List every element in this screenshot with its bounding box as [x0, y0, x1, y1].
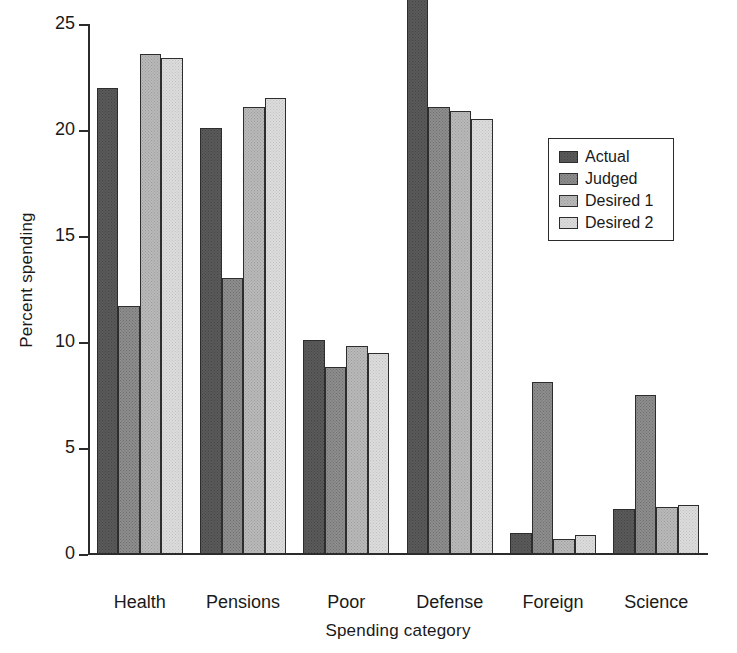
- legend-item: Desired 1: [559, 190, 673, 212]
- x-tick-label: Pensions: [191, 576, 294, 613]
- x-tick-label: Defense: [398, 576, 501, 613]
- y-tick-label: 20: [55, 119, 75, 140]
- bar: [161, 58, 183, 554]
- bar: [450, 111, 472, 554]
- y-tick-mark: [79, 24, 88, 26]
- y-tick-label: 25: [55, 13, 75, 34]
- legend-label: Desired 1: [585, 193, 653, 209]
- x-tick-label: Science: [605, 576, 708, 613]
- bar: [575, 535, 597, 554]
- bar: [200, 128, 222, 554]
- y-tick-mark: [79, 130, 88, 132]
- bar: [656, 507, 678, 554]
- bar-group: [510, 24, 596, 554]
- legend-label: Desired 2: [585, 215, 653, 231]
- bar: [243, 107, 265, 554]
- bar: [346, 346, 368, 554]
- x-tick-label: Poor: [295, 576, 398, 613]
- legend-label: Judged: [585, 171, 638, 187]
- y-tick-mark: [79, 448, 88, 450]
- bar: [303, 340, 325, 554]
- legend-swatch: [559, 195, 578, 207]
- bar: [471, 119, 493, 554]
- legend-swatch: [559, 173, 578, 185]
- bar-group: [97, 24, 183, 554]
- y-tick-mark: [79, 342, 88, 344]
- bar: [613, 509, 635, 554]
- legend: ActualJudgedDesired 1Desired 2: [548, 138, 674, 241]
- y-tick-label: 15: [55, 225, 75, 246]
- bar: [532, 382, 554, 554]
- bar: [678, 505, 700, 554]
- legend-item: Actual: [559, 146, 673, 168]
- legend-item: Judged: [559, 168, 673, 190]
- bar: [222, 278, 244, 554]
- bar: [407, 0, 429, 554]
- bar: [553, 539, 575, 554]
- x-axis-title: Spending category: [88, 621, 708, 641]
- bar-group: [407, 24, 493, 554]
- y-tick-mark: [79, 236, 88, 238]
- y-tick-label: 10: [55, 331, 75, 352]
- bar-group: [303, 24, 389, 554]
- bar: [140, 54, 162, 554]
- bar: [635, 395, 657, 554]
- legend-swatch: [559, 151, 578, 163]
- bar: [118, 306, 140, 554]
- y-tick-mark: [79, 554, 88, 556]
- bar: [510, 533, 532, 554]
- plot-area: 0510152025 HealthPensionsPoorDefenseFore…: [88, 24, 708, 554]
- bar-group: [200, 24, 286, 554]
- legend-swatch: [559, 217, 578, 229]
- y-tick-label: 0: [65, 543, 75, 564]
- y-tick-label: 5: [65, 437, 75, 458]
- bar: [428, 107, 450, 554]
- bar: [265, 98, 287, 554]
- bar-chart-figure: Percent spending Spending category 05101…: [0, 0, 737, 653]
- legend-label: Actual: [585, 149, 629, 165]
- bar: [325, 367, 347, 554]
- bar-group: [613, 24, 699, 554]
- x-tick-label: Foreign: [501, 576, 604, 613]
- bar: [368, 353, 390, 554]
- bar: [97, 88, 119, 554]
- y-axis-title: Percent spending: [12, 0, 42, 560]
- legend-item: Desired 2: [559, 212, 673, 234]
- x-tick-label: Health: [88, 576, 191, 613]
